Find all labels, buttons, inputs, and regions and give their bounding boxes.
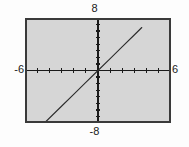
x-max-label: 6 (172, 64, 188, 75)
y-min-label: -8 (0, 126, 189, 137)
plot-window (25, 18, 171, 123)
graph-figure: 8 -8 -6 6 (0, 0, 189, 147)
x-min-label: -6 (2, 64, 24, 75)
plot-canvas (25, 18, 171, 123)
y-max-label: 8 (0, 3, 189, 14)
